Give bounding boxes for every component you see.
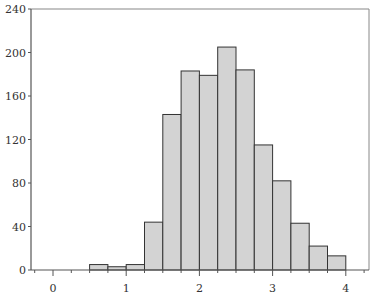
x-tick-label: 1 xyxy=(123,282,130,295)
histogram-bar xyxy=(199,75,217,270)
histogram-chart: 04080120160200240 01234 xyxy=(0,0,372,297)
y-tick-label: 200 xyxy=(5,47,26,60)
histogram-bar xyxy=(145,222,163,270)
y-tick-label: 120 xyxy=(5,134,26,147)
histogram-bar xyxy=(328,256,346,270)
y-tick-label: 240 xyxy=(5,3,26,16)
x-tick-label: 4 xyxy=(342,282,349,295)
histogram-bar xyxy=(126,265,144,270)
histogram-bar xyxy=(163,114,181,270)
x-tick-label: 3 xyxy=(269,282,276,295)
y-tick-label: 0 xyxy=(19,264,26,277)
histogram-bar xyxy=(236,70,254,270)
y-tick-label: 160 xyxy=(5,90,26,103)
x-axis: 01234 xyxy=(31,270,369,295)
histogram-bar xyxy=(90,265,108,270)
x-tick-label: 0 xyxy=(50,282,57,295)
histogram-bar xyxy=(291,223,309,270)
y-axis: 04080120160200240 xyxy=(5,3,31,277)
y-tick-label: 80 xyxy=(12,177,26,190)
histogram-bar xyxy=(254,145,272,270)
histogram-bar xyxy=(273,181,291,270)
histogram-bar xyxy=(218,47,236,270)
histogram-bars xyxy=(90,47,346,270)
x-tick-label: 2 xyxy=(196,282,203,295)
histogram-bar xyxy=(309,246,327,270)
histogram-bar xyxy=(181,71,199,270)
y-tick-label: 40 xyxy=(12,221,26,234)
